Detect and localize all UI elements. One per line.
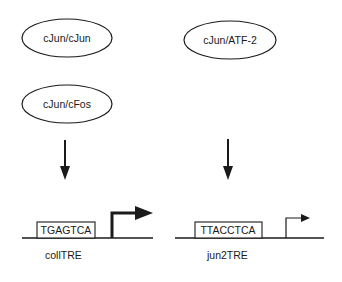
tre-sequence: TGAGTCA — [41, 224, 92, 236]
complex-cjun-cfos: cJun/cFos — [22, 85, 112, 123]
complex-label: cJun/ATF-2 — [203, 34, 257, 46]
element-name: collTRE — [45, 249, 82, 261]
complex-label: cJun/cJun — [43, 32, 90, 44]
transcription-start-arrow-icon — [112, 206, 153, 238]
tre-sequence: TTACCTCA — [200, 224, 255, 236]
diagram-canvas: cJun/cJun cJun/cFos cJun/ATF-2 TGAGTCA c… — [0, 0, 342, 282]
complex-cjun-atf2: cJun/ATF-2 — [184, 21, 276, 59]
complex-label: cJun/cFos — [43, 98, 91, 110]
down-arrow-icon — [223, 139, 233, 180]
transcription-start-arrow-icon — [286, 214, 310, 238]
promoter-jun2tre: TTACCTCA jun2TRE — [175, 214, 324, 261]
down-arrow-icon — [60, 140, 70, 180]
promoter-colltre: TGAGTCA collTRE — [22, 206, 153, 261]
complex-cjun-cjun: cJun/cJun — [22, 19, 112, 57]
element-name: jun2TRE — [206, 249, 248, 261]
